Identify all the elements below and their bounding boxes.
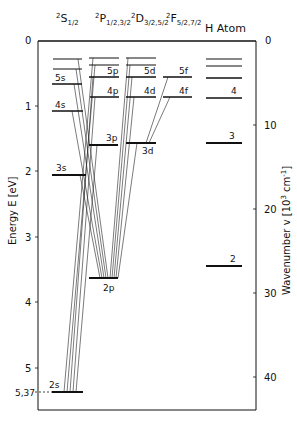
- svg-text:2F5/2,7/2: 2F5/2,7/2: [166, 12, 202, 27]
- svg-text:2: 2: [25, 166, 31, 177]
- level-4s: 4s: [55, 100, 66, 110]
- svg-text:5,37: 5,37: [15, 388, 35, 398]
- level-5p: 5p: [107, 66, 119, 76]
- svg-text:2D3/2,5/2: 2D3/2,5/2: [131, 12, 169, 27]
- h-level-4: 4: [231, 86, 237, 96]
- svg-text:5: 5: [25, 363, 31, 374]
- h-level-2: 2: [230, 254, 236, 264]
- svg-text:2P1/2,3/2: 2P1/2,3/2: [95, 12, 131, 27]
- level-4d: 4d: [144, 86, 155, 96]
- h-atom-header: H Atom: [205, 22, 246, 35]
- svg-text:0: 0: [25, 35, 31, 46]
- right-axis: 0 10 20 30 40 Wavenumber v [103 cm-1]: [253, 35, 292, 383]
- left-axis-label: Energy E [eV]: [7, 176, 18, 245]
- transition-lines: [64, 58, 170, 392]
- left-axis: 0 1 2 3 4 5 5,37 Energy E [eV]: [7, 35, 52, 398]
- level-2p: 2p: [103, 283, 115, 293]
- level-3d: 3d: [142, 146, 153, 156]
- svg-text:30: 30: [264, 288, 277, 299]
- level-3s: 3s: [56, 163, 67, 173]
- svg-text:10: 10: [264, 120, 277, 131]
- svg-text:4: 4: [25, 297, 31, 308]
- svg-text:1: 1: [25, 101, 31, 112]
- level-4p: 4p: [107, 86, 119, 96]
- svg-text:0: 0: [265, 35, 271, 46]
- svg-text:20: 20: [264, 204, 277, 215]
- svg-text:2S1/2: 2S1/2: [56, 12, 79, 27]
- h-level-3: 3: [229, 131, 235, 141]
- svg-text:3: 3: [25, 232, 31, 243]
- level-4f: 4f: [179, 86, 189, 96]
- level-3p: 3p: [106, 133, 118, 143]
- column-headers: 2S1/2 2P1/2,3/2 2D3/2,5/2 2F5/2,7/2 H At…: [56, 12, 246, 35]
- level-5d: 5d: [144, 66, 155, 76]
- level-5f: 5f: [179, 66, 189, 76]
- energy-level-diagram: 2S1/2 2P1/2,3/2 2D3/2,5/2 2F5/2,7/2 H At…: [0, 0, 297, 421]
- level-2s: 2s: [49, 380, 60, 390]
- svg-text:40: 40: [264, 372, 277, 383]
- right-axis-label: Wavenumber v [103 cm-1]: [280, 166, 292, 295]
- level-5s: 5s: [55, 73, 66, 83]
